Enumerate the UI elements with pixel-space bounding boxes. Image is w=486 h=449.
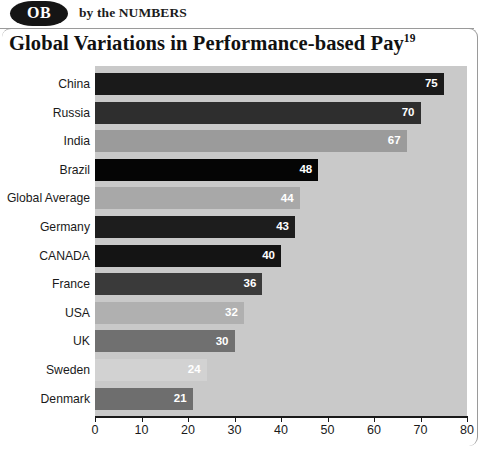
category-label: UK — [0, 330, 90, 352]
bar-value-label: 21 — [174, 393, 193, 405]
bar-value-label: 32 — [225, 307, 244, 319]
bar-row: 67 — [95, 130, 467, 152]
x-axis-tick — [235, 416, 236, 422]
category-label: Denmark — [0, 388, 90, 410]
bar-row: 44 — [95, 187, 467, 209]
x-axis-tick — [328, 416, 329, 422]
x-axis-tick — [281, 416, 282, 422]
bar: 21 — [95, 388, 193, 410]
ob-logo-badge: OB — [10, 1, 68, 26]
page-title: Global Variations in Performance-based P… — [9, 32, 416, 55]
bar-value-label: 40 — [262, 250, 281, 262]
bar-row: 43 — [95, 216, 467, 238]
x-axis-tick-label: 50 — [321, 423, 335, 437]
bar-value-label: 70 — [402, 107, 421, 119]
x-axis-tick-label: 70 — [414, 423, 428, 437]
category-label: France — [0, 273, 90, 295]
page-title-text: Global Variations in Performance-based P… — [9, 32, 404, 54]
bar: 32 — [95, 302, 244, 324]
category-label: China — [0, 73, 90, 95]
x-axis-tick — [95, 416, 96, 422]
bar-value-label: 44 — [281, 193, 300, 205]
x-axis-tick-label: 0 — [92, 423, 99, 437]
x-axis-tick — [421, 416, 422, 422]
bar: 70 — [95, 102, 421, 124]
bar-value-label: 67 — [388, 135, 407, 147]
x-axis-tick-label: 60 — [367, 423, 381, 437]
bar: 30 — [95, 330, 235, 352]
x-axis-tick — [467, 416, 468, 422]
x-axis-tick-label: 30 — [228, 423, 242, 437]
bar-value-label: 75 — [425, 78, 444, 90]
category-label: Germany — [0, 216, 90, 238]
bar-value-label: 36 — [244, 278, 263, 290]
category-label: USA — [0, 302, 90, 324]
x-axis-tick-label: 10 — [135, 423, 149, 437]
bar-row: 48 — [95, 159, 467, 181]
bar-row: 75 — [95, 73, 467, 95]
header-band: OB by the NUMBERS — [0, 0, 486, 27]
x-axis-tick — [374, 416, 375, 422]
category-label: Sweden — [0, 359, 90, 381]
bar: 44 — [95, 187, 300, 209]
bar-value-label: 48 — [299, 164, 318, 176]
footnote-marker: 19 — [404, 32, 416, 44]
category-label: India — [0, 130, 90, 152]
bar: 40 — [95, 245, 281, 267]
bar-row: 24 — [95, 359, 467, 381]
bar: 75 — [95, 73, 444, 95]
x-axis-tick-label: 20 — [181, 423, 195, 437]
bar-row: 36 — [95, 273, 467, 295]
bar-row: 70 — [95, 102, 467, 124]
x-axis-tick-label: 40 — [274, 423, 288, 437]
bars-container: 757067484443403632302421 — [95, 66, 467, 416]
bar-value-label: 43 — [276, 221, 295, 233]
category-axis-labels: ChinaRussiaIndiaBrazilGlobal AverageGerm… — [0, 66, 90, 416]
category-label: Brazil — [0, 159, 90, 181]
x-axis-tick — [188, 416, 189, 422]
bar-row: 30 — [95, 330, 467, 352]
bar-value-label: 30 — [216, 336, 235, 348]
bar-value-label: 24 — [188, 364, 207, 376]
category-label: Russia — [0, 102, 90, 124]
category-label: Global Average — [0, 187, 90, 209]
ob-badge-label: OB — [27, 5, 51, 22]
plot-area: 757067484443403632302421 — [95, 66, 467, 416]
bar-row: 21 — [95, 388, 467, 410]
x-axis-tick-label: 80 — [460, 423, 474, 437]
category-label: CANADA — [0, 245, 90, 267]
bar-row: 32 — [95, 302, 467, 324]
bar-row: 40 — [95, 245, 467, 267]
header-byline: by the NUMBERS — [79, 5, 187, 21]
chart-page: OB by the NUMBERS Global Variations in P… — [0, 0, 486, 449]
x-axis-tick — [142, 416, 143, 422]
bar: 67 — [95, 130, 407, 152]
bar: 24 — [95, 359, 207, 381]
bar: 36 — [95, 273, 262, 295]
bar: 48 — [95, 159, 318, 181]
bar: 43 — [95, 216, 295, 238]
